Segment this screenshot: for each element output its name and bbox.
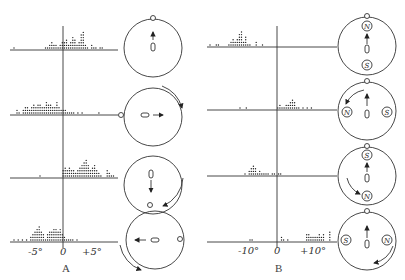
- apparatus-b: [338, 14, 396, 271]
- panel-label-a: A: [62, 262, 70, 274]
- apparatus-a: [119, 16, 185, 271]
- svg-text:N: N: [383, 237, 391, 245]
- tick-label-a-plus: +5°: [82, 246, 102, 257]
- svg-text:S: S: [365, 62, 370, 70]
- lamp-icon: [178, 237, 183, 242]
- lamp-icon: [151, 16, 156, 21]
- tick-label-b-plus: +10°: [300, 245, 326, 256]
- lamp-icon: [148, 203, 153, 208]
- svg-text:N: N: [363, 193, 371, 201]
- tick-label-b-minus: -10°: [238, 245, 259, 256]
- lamp-icon: [365, 209, 370, 214]
- histogram-dots-a: [13, 31, 330, 240]
- larva-icon: [365, 110, 369, 118]
- svg-text:S: S: [344, 237, 349, 245]
- dish-a4: [126, 211, 184, 269]
- larva-icon: [365, 45, 369, 53]
- panel-label-b: B: [275, 262, 282, 274]
- dish-a3: [124, 156, 182, 214]
- svg-text:N: N: [343, 109, 351, 117]
- lamp-icon: [365, 144, 370, 149]
- lamp-icon: [365, 14, 370, 19]
- svg-text:S: S: [365, 152, 370, 160]
- panel-b: [207, 26, 337, 248]
- lamp-icon: [119, 113, 124, 118]
- tick-label-a-minus: -5°: [28, 246, 43, 257]
- larva-icon: [151, 238, 159, 242]
- larva-icon: [365, 240, 369, 248]
- larva-icon: [141, 113, 149, 117]
- figure-canvas: NS NS SN SN: [0, 0, 405, 280]
- tick-label-a-zero: 0: [60, 246, 66, 257]
- svg-text:S: S: [385, 109, 390, 117]
- larva-icon: [151, 43, 155, 51]
- dish-a2: [124, 88, 182, 146]
- lamp-icon: [365, 79, 370, 84]
- dish-a1: [124, 19, 182, 77]
- larva-icon: [365, 174, 369, 182]
- larva-icon: [149, 170, 153, 178]
- panel-a: [10, 26, 118, 248]
- tick-label-b-zero: 0: [274, 245, 280, 256]
- svg-text:N: N: [363, 23, 371, 31]
